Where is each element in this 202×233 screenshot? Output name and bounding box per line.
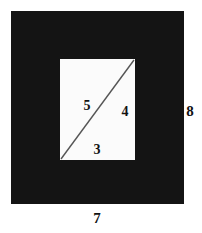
label-hypotenuse: 5 xyxy=(80,99,94,113)
geometry-figure: 5 4 3 8 7 xyxy=(0,0,202,233)
label-square-right-side: 8 xyxy=(183,104,197,119)
label-rectangle-height: 4 xyxy=(118,105,132,119)
label-square-bottom-side: 7 xyxy=(90,211,104,226)
label-rectangle-width: 3 xyxy=(90,143,104,157)
